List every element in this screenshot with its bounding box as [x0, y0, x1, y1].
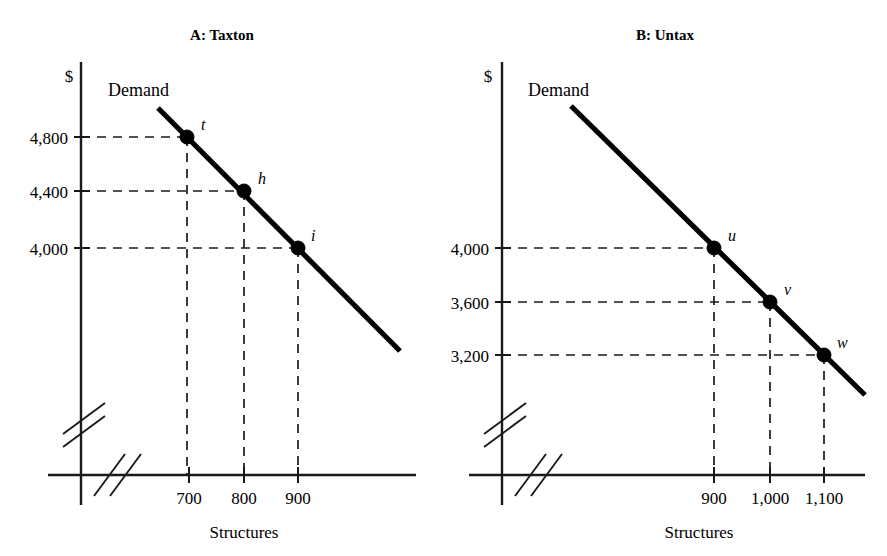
- panel-a-x-tick-label-2: 900: [285, 489, 311, 508]
- panel-b-demand-label: Demand: [528, 80, 589, 100]
- panel-a-x-tick-label-0: 700: [176, 489, 202, 508]
- panel-a-demand-label: Demand: [108, 80, 169, 100]
- panel-a-point-h: [237, 184, 251, 198]
- panel-b-x-tick-label-1: 1,000: [751, 489, 789, 508]
- panel-a-taxton: A: Taxton $ 4,800 4,400 4,000 700 800 90…: [0, 0, 444, 556]
- panel-b-y-axis-break-icon: [484, 403, 526, 447]
- panel-a-point-t: [180, 130, 194, 144]
- panel-a-point-label-t: t: [201, 116, 206, 133]
- panel-a-point-label-i: i: [311, 227, 315, 244]
- panel-b-x-axis-title: Structures: [665, 523, 734, 542]
- panel-a-x-tick-label-1: 800: [231, 489, 257, 508]
- panel-a-y-tick-label-0: 4,800: [30, 129, 68, 148]
- panel-b-untax: B: Untax $ 4,000 3,600 3,200 900 1,000 1…: [444, 0, 887, 556]
- figure-container: A: Taxton $ 4,800 4,400 4,000 700 800 90…: [0, 0, 887, 556]
- panel-a-x-axis-title: Structures: [210, 523, 279, 542]
- panel-a-y-tick-label-1: 4,400: [30, 183, 68, 202]
- panel-a-y-axis-break-icon: [63, 403, 105, 447]
- panel-b-x-tick-label-2: 1,100: [805, 489, 843, 508]
- panel-b-x-tick-label-0: 900: [701, 489, 727, 508]
- panel-b-point-w: [817, 348, 831, 362]
- panel-b-point-label-v: v: [784, 281, 792, 298]
- panel-b-point-v: [763, 295, 777, 309]
- panel-a-point-label-h: h: [258, 170, 266, 187]
- panel-b-title: B: Untax: [636, 27, 694, 43]
- panel-a-demand-curve: [158, 108, 400, 351]
- panel-b-point-label-w: w: [837, 334, 848, 351]
- panel-a-currency-label: $: [65, 67, 74, 86]
- panel-b-point-u: [707, 241, 721, 255]
- panel-b-y-tick-label-1: 3,600: [451, 294, 489, 313]
- panel-a-point-i: [291, 241, 305, 255]
- panel-b-y-tick-label-2: 3,200: [451, 347, 489, 366]
- panel-a-y-tick-label-2: 4,000: [30, 240, 68, 259]
- panel-b-y-tick-label-0: 4,000: [451, 240, 489, 259]
- panel-b-currency-label: $: [484, 67, 493, 86]
- panel-a-title: A: Taxton: [190, 27, 254, 43]
- panel-b-point-label-u: u: [728, 227, 736, 244]
